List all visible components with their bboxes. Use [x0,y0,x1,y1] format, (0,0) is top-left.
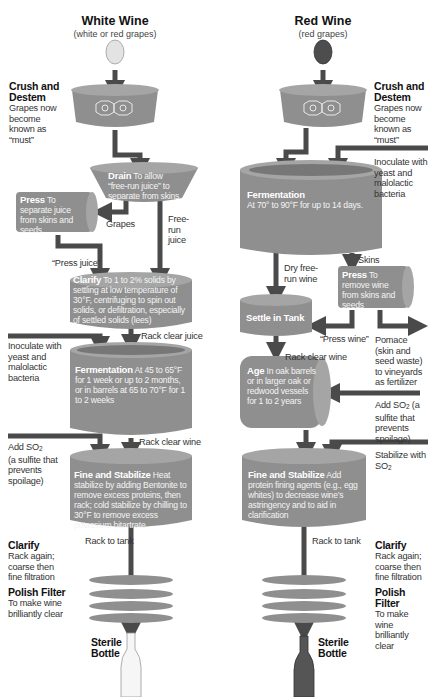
red-press-text: Press To remove wine from skins and seed… [342,270,402,310]
white-clarify2-text: Rack again; coarse then fine filtration [8,551,68,583]
red-stabilize-so2-sub: 2 [388,464,391,471]
red-grape-icon [314,40,332,64]
white-add-so2-line1: Add SO [8,442,39,452]
red-fine-stabilize-text: Fine and Stabilize Add protein fining ag… [248,470,364,520]
red-press-heading: Press [342,269,367,280]
red-bottle-label: Sterile Bottle [318,637,352,659]
red-crush-heading: Crush and Destem [374,81,428,103]
white-wine-subtitle: (white or red grapes) [55,29,175,39]
red-age-text: Age In oak barrels or in larger oak or r… [247,366,317,406]
rack-clear-juice-label: Rack clear juice [141,331,203,342]
white-press-text: Press To separate juice from skins and s… [20,195,82,235]
white-polish-text: To make wine brilliantly clear [8,598,70,619]
red-settle-heading: Settle in Tank [246,312,304,323]
red-filter-discs-icon [262,575,346,623]
white-crush-text: Grapes now become known as “must” [9,103,67,145]
press-juice-label: “Press juice” [52,258,100,269]
white-polish-heading: Polish Filter [8,587,70,598]
dry-free-run-label: Dry free-run wine [284,263,318,284]
white-polish-label: Polish Filter To make wine brilliantly c… [8,587,70,619]
white-filter-discs-icon [89,575,173,623]
white-press-heading: Press [20,194,45,205]
red-crush-text: Grapes now become known as “must” [374,103,428,145]
red-add-so2-label: Add SO2 (a sulfite that prevents spoilag… [375,400,428,444]
red-settle-text: Settle in Tank [246,313,310,323]
white-add-so2-sub: 2 [39,445,42,452]
red-fine-stabilize-heading: Fine and Stabilize [248,469,325,480]
white-fermentation-text: Fermentation At 45 to 65°F for 1 week or… [75,365,187,405]
red-rack-to-tank-label: Rack to tank [312,536,361,547]
white-crush-heading: Crush and Destem [9,81,67,103]
red-wine-subtitle: (red grapes) [270,29,376,39]
red-crush-label: Crush and Destem Grapes now become known… [374,81,428,145]
red-wine-title: Red Wine [270,14,376,28]
red-rack-clear-wine-label: Rack clear wine [285,352,347,363]
white-crush-vessel-icon [71,84,159,127]
white-rack-to-tank-label: Rack to tank [85,536,134,547]
red-polish-text: To make wine brilliantly clear [375,609,428,651]
white-clarify-heading: Clarify [73,274,101,285]
red-stabilize-so2-line1: Stabilize with SO [375,450,426,471]
press-wine-label: “Press wine” [320,334,369,345]
white-drain-text: Drain To allow “free-run juice” to separ… [108,171,180,201]
red-polish-label: Polish Filter To make wine brilliantly c… [375,587,428,651]
white-bottle-label: Sterile Bottle [91,637,121,659]
red-clarify2-heading: Clarify [375,540,428,551]
red-clarify2-label: Clarify Rack again; coarse then fine fil… [375,540,428,583]
red-crush-vessel-icon [279,84,367,127]
white-crush-label: Crush and Destem Grapes now become known… [9,81,67,145]
red-clarify2-text: Rack again; coarse then fine filtration [375,551,428,583]
red-add-so2-line1: Add SO [375,400,406,410]
white-drain-heading: Drain [108,170,131,181]
white-add-so2-label: Add SO2 (a sulfite that prevents spoilag… [8,442,64,486]
white-grape-icon [106,40,124,64]
red-fermentation-text: Fermentation At 70° to 90°F for up to 14… [247,190,379,210]
white-add-so2-line2: (a sulfite that prevents spoilage) [8,455,64,487]
skins-label: Skins [358,255,379,266]
red-bottle-icon [294,636,314,697]
white-inoculate-label: Inoculate with yeast and malolactic bact… [8,341,64,383]
white-bottle-icon [121,633,141,697]
red-age-heading: Age [247,365,264,376]
white-rack-clear-wine-label: Rack clear wine [139,437,201,448]
white-clarify-text: Clarify To 1 to 2% solids by settling at… [73,275,191,325]
white-fine-stabilize-text: Fine and Stabilize Heat stabilize by add… [74,470,196,530]
pomace-label: Pomace (skin and seed waste) to vineyard… [375,335,428,388]
red-stabilize-so2-label: Stabilize with SO2 [375,450,428,473]
white-wine-title: White Wine [60,14,170,28]
grapes-label: Grapes [106,219,135,230]
white-clarify2-label: Clarify Rack again; coarse then fine fil… [8,540,68,583]
white-fermentation-heading: Fermentation [75,364,133,375]
red-polish-heading: Polish Filter [375,587,428,609]
free-run-juice-label: Free-run juice [168,214,196,246]
red-fermentation-desc: At 70° to 90°F for up to 14 days. [247,200,363,210]
red-add-so2-sub: 2 [406,403,409,410]
red-fermentation-heading: Fermentation [247,189,305,200]
white-fine-stabilize-heading: Fine and Stabilize [74,469,151,480]
red-inoculate-label: Inoculate with yeast and malolactic bact… [374,157,428,199]
white-clarify2-heading: Clarify [8,540,68,551]
